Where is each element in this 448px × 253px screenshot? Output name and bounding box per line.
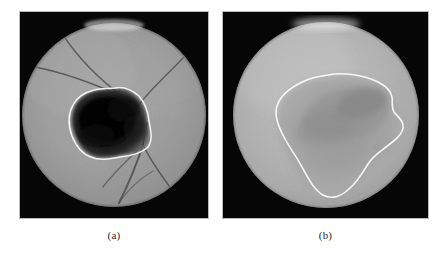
- panel-a-image: [19, 11, 209, 219]
- disc-highlight-a: [84, 19, 144, 31]
- angiogram-render-a: [19, 11, 209, 219]
- figure-panel-a: [19, 11, 209, 219]
- figure-panel-b: [222, 11, 429, 219]
- panel-b-image: [222, 11, 429, 219]
- panel-a-caption: (a): [19, 229, 209, 241]
- lesion-region-a: [72, 88, 149, 157]
- panel-b-caption: (b): [222, 229, 429, 241]
- figure-container: (a) (b): [0, 0, 448, 253]
- fundus-render-b: [222, 11, 429, 219]
- disc-highlight-b: [292, 18, 360, 30]
- fundus-marking-b: [373, 144, 383, 150]
